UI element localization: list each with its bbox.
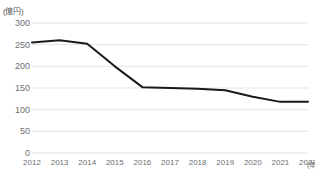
x-tick-label: 2018 bbox=[189, 158, 207, 167]
x-tick-label: 2020 bbox=[244, 158, 262, 167]
line-chart: (億円) 050100150200250300 2012201320142015… bbox=[0, 0, 315, 174]
x-tick-label: 2014 bbox=[78, 158, 96, 167]
x-tick-label: 2012 bbox=[23, 158, 41, 167]
x-tick-label: 2019 bbox=[216, 158, 234, 167]
x-tick-label: 2015 bbox=[106, 158, 124, 167]
x-axis: 2012201320142015201620172018201920202021… bbox=[0, 0, 315, 174]
x-axis-unit-label: (年) bbox=[307, 159, 315, 169]
x-tick-label: 2021 bbox=[271, 158, 289, 167]
x-tick-label: 2017 bbox=[161, 158, 179, 167]
x-tick-label: 2016 bbox=[133, 158, 151, 167]
x-tick-label: 2013 bbox=[51, 158, 69, 167]
